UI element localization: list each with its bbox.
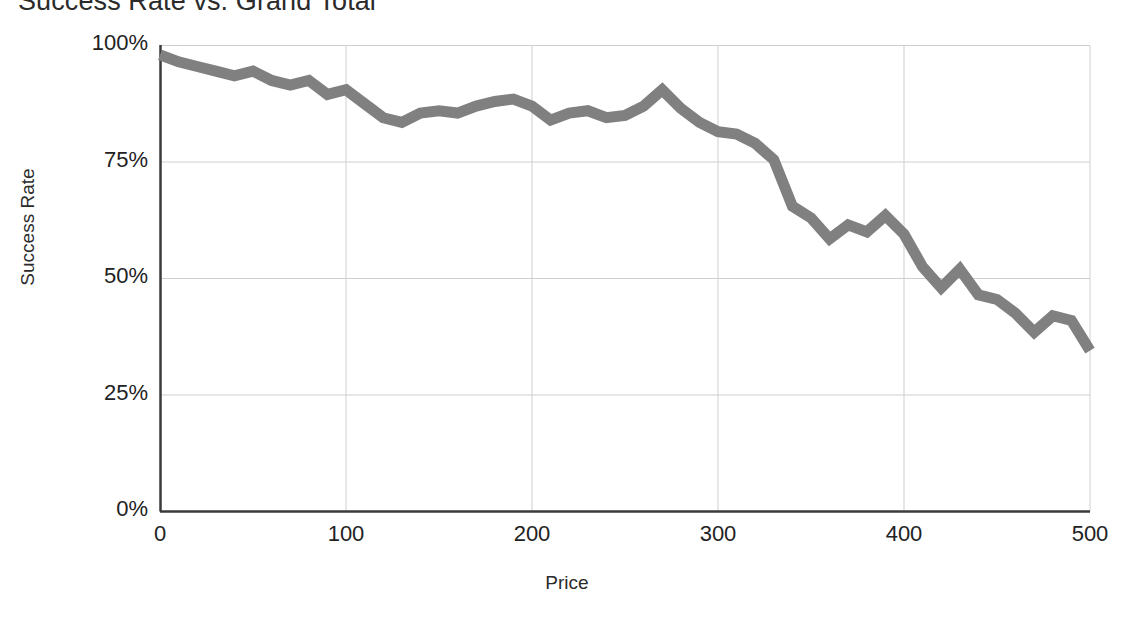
x-tick-100: 100 [328, 521, 365, 547]
x-tick-500: 500 [1072, 521, 1109, 547]
horizontal-gridlines [160, 46, 1090, 396]
x-tick-0: 0 [154, 521, 166, 547]
series-line-success-rate [160, 55, 1090, 351]
x-tick-300: 300 [700, 521, 737, 547]
x-axis-title: Price [0, 572, 1134, 594]
chart-container: Success Rate vs. Grand Total Success Rat… [0, 0, 1134, 619]
x-tick-200: 200 [514, 521, 551, 547]
plot-area [0, 0, 1134, 619]
x-tick-400: 400 [886, 521, 923, 547]
